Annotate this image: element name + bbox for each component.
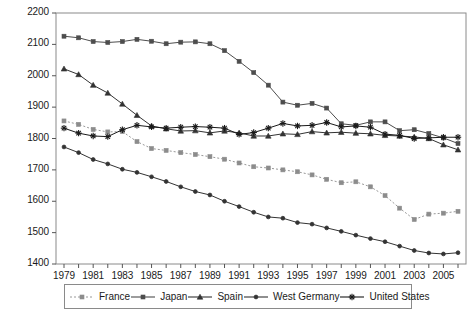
series-west-germany — [62, 145, 460, 256]
y-axis-tick-label: 1400 — [0, 257, 49, 268]
y-axis-tick-label: 2100 — [0, 37, 49, 48]
legend-swatch-icon — [130, 291, 156, 303]
legend-item-united-states[interactable]: United States — [339, 291, 429, 303]
legend: FranceJapanSpainWest GermanyUnited State… — [64, 284, 412, 309]
legend-item-west-germany[interactable]: West Germany — [243, 291, 340, 303]
y-axis-tick-label: 2200 — [0, 6, 49, 17]
legend-label: Japan — [160, 291, 187, 302]
legend-item-france[interactable]: France — [69, 291, 130, 303]
legend-swatch-icon — [187, 291, 213, 303]
legend-swatch-icon — [339, 291, 365, 303]
legend-swatch-icon — [243, 291, 269, 303]
y-axis-tick-label: 1600 — [0, 194, 49, 205]
y-axis-tick-label: 1900 — [0, 100, 49, 111]
y-axis-tick-label: 1800 — [0, 132, 49, 143]
legend-item-spain[interactable]: Spain — [187, 291, 243, 303]
y-axis-tick-label: 1500 — [0, 226, 49, 237]
x-axis-tick-label: 2005 — [423, 270, 463, 281]
legend-item-japan[interactable]: Japan — [130, 291, 187, 303]
legend-label: Spain — [217, 291, 243, 302]
y-axis-tick-label: 1700 — [0, 163, 49, 174]
plot-frame — [56, 13, 466, 264]
legend-label: United States — [369, 291, 429, 302]
y-axis-tick-label: 2000 — [0, 69, 49, 80]
legend-label: France — [99, 291, 130, 302]
legend-label: West Germany — [273, 291, 340, 302]
legend-swatch-icon — [69, 291, 95, 303]
line-chart: 2200210020001900180017001600150014001979… — [0, 0, 476, 322]
